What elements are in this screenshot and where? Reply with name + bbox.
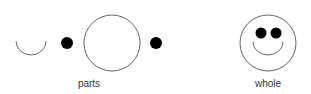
smiley-right-eye [271, 28, 282, 39]
smiley-face-outline [240, 15, 296, 71]
smiley-left-eye [256, 28, 267, 39]
parts-label: parts [78, 78, 100, 89]
eye-dot-part-2 [150, 37, 162, 49]
smiley-mouth [253, 42, 283, 55]
parts-whole-diagram: parts whole [0, 0, 311, 94]
parts-group: parts [16, 15, 162, 89]
face-circle-part [84, 15, 140, 71]
whole-label: whole [254, 78, 282, 89]
whole-group: whole [240, 15, 296, 89]
eye-dot-part-1 [61, 37, 73, 49]
mouth-arc-part [16, 41, 46, 55]
